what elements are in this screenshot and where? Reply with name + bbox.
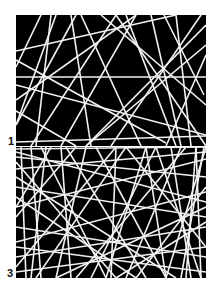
- network-line: [16, 15, 76, 125]
- line-network-graphic-1: [16, 15, 206, 146]
- network-line: [16, 15, 56, 125]
- network-line: [81, 15, 141, 146]
- line-network-graphic-3: [16, 147, 206, 278]
- network-line: [116, 15, 206, 146]
- panel-label-1: 1: [8, 136, 14, 147]
- line-network-panel-3: [16, 147, 206, 278]
- network-line: [86, 25, 206, 146]
- line-network-panel-1: [16, 15, 206, 146]
- network-line: [16, 15, 41, 67]
- network-line: [16, 136, 206, 142]
- network-line: [16, 147, 206, 149]
- panel-label-3: 3: [7, 268, 13, 279]
